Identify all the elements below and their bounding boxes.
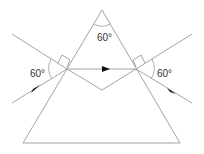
apex-angle-label: 60° xyxy=(97,32,112,43)
right-right-angle-marker xyxy=(133,55,145,67)
apex-angle-arc xyxy=(94,24,110,26)
right-angle-label: 60° xyxy=(157,68,172,79)
right-normal-inside xyxy=(102,69,136,90)
refracted-ray-arrow xyxy=(102,66,110,72)
right-normal-outside xyxy=(136,34,192,69)
prism-diagram: 60° 60° 60° xyxy=(0,0,204,154)
left-normal-inside xyxy=(67,69,102,90)
left-angle-arc xyxy=(49,59,52,79)
left-normal-outside xyxy=(12,34,67,69)
left-right-angle-marker xyxy=(58,55,70,67)
incident-ray-arrow xyxy=(31,85,40,93)
left-angle-label: 60° xyxy=(30,68,45,79)
right-angle-arc xyxy=(151,59,154,79)
